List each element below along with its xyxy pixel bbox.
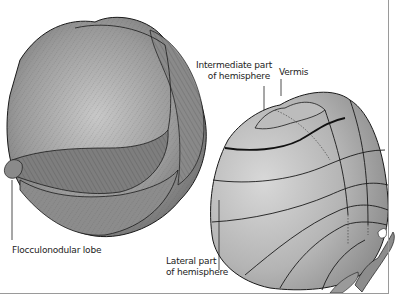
left-cerebellum [4,17,206,236]
label-lateral-part: Lateral part of hemisphere [166,256,228,278]
right-cerebellum [211,92,395,293]
label-lateral-line2: of hemisphere [166,267,228,278]
label-intermediate-line1: Intermediate part [196,60,270,71]
label-lateral-line1: Lateral part [166,256,228,267]
frame-right-border [388,0,389,294]
frame-bottom-border [0,293,389,294]
label-flocculonodular-text: Flocculonodular lobe [12,245,101,255]
label-vermis-text: Vermis [279,67,308,77]
label-intermediate-line2: of hemisphere [196,71,270,82]
label-vermis: Vermis [279,67,308,78]
label-intermediate-part: Intermediate part of hemisphere [196,60,270,82]
label-flocculonodular-lobe: Flocculonodular lobe [12,245,101,256]
